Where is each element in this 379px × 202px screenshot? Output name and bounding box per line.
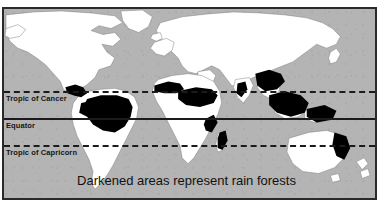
land-greenland [121,10,153,33]
equator-line [4,118,375,120]
land-japan [329,48,341,64]
land-british-isles [150,33,162,42]
land-europe-west [150,38,174,56]
map-frame: Tropic of Cancer Equator Tropic of Capri… [2,7,377,200]
tropic-of-capricorn-line [4,145,375,147]
world-map-graphic [4,9,375,198]
tropic-of-cancer-line [4,91,375,93]
equator-label: Equator [6,121,35,130]
tropic-of-cancer-label: Tropic of Cancer [6,94,67,103]
map-caption: Darkened areas represent rain forests [4,173,369,188]
land-north-america [6,11,123,93]
tropic-of-capricorn-label: Tropic of Capricorn [6,148,77,157]
rainforest-world-map-figure: Tropic of Cancer Equator Tropic of Capri… [0,0,379,202]
